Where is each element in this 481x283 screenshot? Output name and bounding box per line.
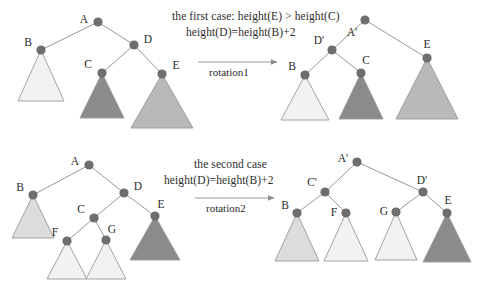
tree-node-g [392,208,400,216]
node-label-a-prime: A' [347,26,357,38]
node-label-b: B [24,36,32,48]
subtree-triangle-f [324,213,368,261]
subtree-triangle-c [80,73,124,118]
node-label-b: B [16,181,24,193]
edge-Cp-B [297,192,325,213]
subtree-triangle-g [375,212,417,260]
tree-node-a [85,161,93,169]
edge-D-E [134,45,162,74]
tree-node-b [29,191,37,199]
subtree-triangle-e [423,213,471,262]
edge-A-B [33,165,89,195]
tree-node-b [293,209,301,217]
tree-node-f [342,209,350,217]
node-label-f: F [331,206,337,218]
second-case-before-rotation [12,161,180,279]
node-label-d-prime: D' [417,174,427,186]
subtree-triangle-e [130,216,180,260]
node-label-c: C [362,54,370,66]
subtree-triangle-b [275,213,319,261]
subtree-triangle-b [12,195,54,238]
edge-A-D [89,165,124,193]
tree-node-c [357,69,365,77]
node-label-g: G [380,205,388,217]
node-label-a-prime: A' [338,152,348,164]
edge-Ap-Cp [325,162,357,192]
tree-node-g [102,236,110,244]
edge-Dp-G [396,192,423,212]
second-case-height-condition: height(D)=height(B)+2 [164,174,274,186]
subtree-triangle-e [131,74,193,128]
edge-A-B [41,22,98,50]
tree-node-d [130,41,138,49]
subtree-triangle-f [47,241,87,279]
tree-node-b [37,46,45,54]
tree-node-a-prime [353,158,361,166]
node-label-e: E [423,38,430,50]
edge-Dp-B [305,50,332,75]
subtree-triangle-e [396,58,458,119]
tree-node-a-prime [361,16,369,24]
node-label-g: G [108,223,116,235]
rotation1-label: rotation1 [209,66,249,78]
subtree-triangle-b [18,50,64,101]
subtree-triangle-b [281,75,329,120]
second-case-after-rotation [275,158,471,262]
first-case-before-rotation [18,18,193,128]
tree-node-d-prime [328,46,336,54]
tree-node-e [151,212,159,220]
node-label-c: C [77,203,85,215]
edge-Ap-Dp [357,162,423,192]
tree-node-b [301,71,309,79]
edge-Dp-E [423,192,447,213]
first-case-height-condition: height(D)=height(B)+2 [186,26,296,38]
node-label-a: A [80,13,88,25]
tree-node-d-prime [419,188,427,196]
edge-C-F [67,218,94,241]
tree-node-e [423,54,431,62]
node-label-c: C [84,58,92,70]
node-label-d: D [134,180,142,192]
node-label-b: B [281,199,289,211]
second-case-title: the second case [194,158,267,170]
node-label-d: D [144,33,152,45]
edge-D-C [94,193,124,218]
subtree-triangle-g [86,240,126,279]
tree-node-f [63,237,71,245]
edge-Dp-C [332,50,361,73]
edge-D-E [124,193,155,216]
node-label-e: E [444,194,451,206]
edge-Ap-E [365,20,427,58]
rotation2-label: rotation2 [206,202,246,214]
avl-rotation-figure: the first case: height(E) > height(C) he… [0,0,481,283]
tree-node-c-prime [321,188,329,196]
tree-node-e [158,70,166,78]
node-label-e: E [157,198,164,210]
node-label-a: A [71,155,79,167]
node-label-d-prime: D' [314,34,324,46]
tree-node-c [90,214,98,222]
node-label-f: F [52,226,58,238]
node-label-b: B [288,60,296,72]
tree-node-d [120,189,128,197]
subtree-triangle-c [339,73,383,119]
tree-node-a [94,18,102,26]
node-label-c-prime: C' [307,176,317,188]
tree-node-c [98,69,106,77]
first-case-title: the first case: height(E) > height(C) [172,10,340,22]
first-case-after-rotation [281,16,458,120]
node-label-e: E [172,59,179,71]
tree-diagram-graphics [0,0,481,283]
edge-A-D [98,22,134,45]
edge-D-C [102,45,134,73]
tree-node-e [443,209,451,217]
